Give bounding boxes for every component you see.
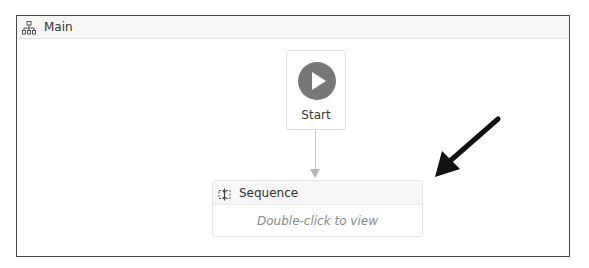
connector-arrowhead-icon: [310, 169, 320, 178]
play-circle-icon: [298, 62, 336, 100]
sequence-hint: Double-click to view: [213, 205, 422, 228]
sequence-header[interactable]: Sequence: [213, 181, 422, 205]
flow-connector-line: [315, 130, 316, 172]
black-arrow-pointer-icon: [430, 115, 502, 185]
sequence-title: Sequence: [239, 186, 298, 200]
workflow-tree-icon: [22, 20, 36, 34]
sequence-icon: [218, 186, 231, 199]
start-label: Start: [287, 108, 345, 122]
sequence-activity[interactable]: Sequence Double-click to view: [212, 180, 423, 237]
designer-header: Main: [17, 16, 569, 39]
start-node[interactable]: Start: [286, 50, 346, 130]
workflow-title: Main: [44, 20, 73, 34]
